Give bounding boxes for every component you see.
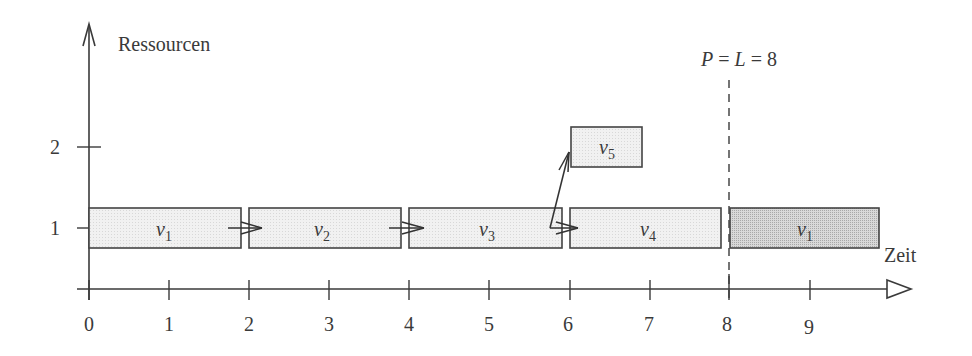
y-tick-label-1: 1 xyxy=(50,217,60,239)
task-v1: v1 xyxy=(89,208,241,248)
schedule-diagram: Ressourcen 2 1 0 1 2 3 4 5 6 7 8 9 Zeit … xyxy=(0,0,972,356)
x-axis xyxy=(77,274,911,300)
x-axis-label: Zeit xyxy=(884,244,917,266)
x-tick-label: 3 xyxy=(324,313,334,335)
y-axis-label: Ressourcen xyxy=(118,33,210,55)
x-tick-labels: 0 1 2 3 4 5 6 7 8 9 xyxy=(84,313,814,338)
y-tick-label-2: 2 xyxy=(50,136,60,158)
x-tick-label: 6 xyxy=(563,313,573,335)
x-tick-label: 4 xyxy=(404,313,414,335)
x-tick-label: 0 xyxy=(84,313,94,335)
task-v5: v5 xyxy=(571,127,642,167)
task-v2: v2 xyxy=(249,208,401,248)
x-tick-label: 8 xyxy=(722,313,732,335)
task-v3: v3 xyxy=(409,208,562,248)
x-tick-label: 1 xyxy=(164,313,174,335)
x-tick-label: 5 xyxy=(484,313,494,335)
period-marker-label: P = L = 8 xyxy=(700,48,777,70)
x-tick-label: 9 xyxy=(804,316,814,338)
x-tick-label: 7 xyxy=(644,313,654,335)
task-v4: v4 xyxy=(570,208,721,248)
y-axis xyxy=(77,24,101,300)
x-axis-arrow-icon xyxy=(887,280,911,298)
task-v1-next-period: v1 xyxy=(730,208,879,248)
x-tick-label: 2 xyxy=(244,313,254,335)
